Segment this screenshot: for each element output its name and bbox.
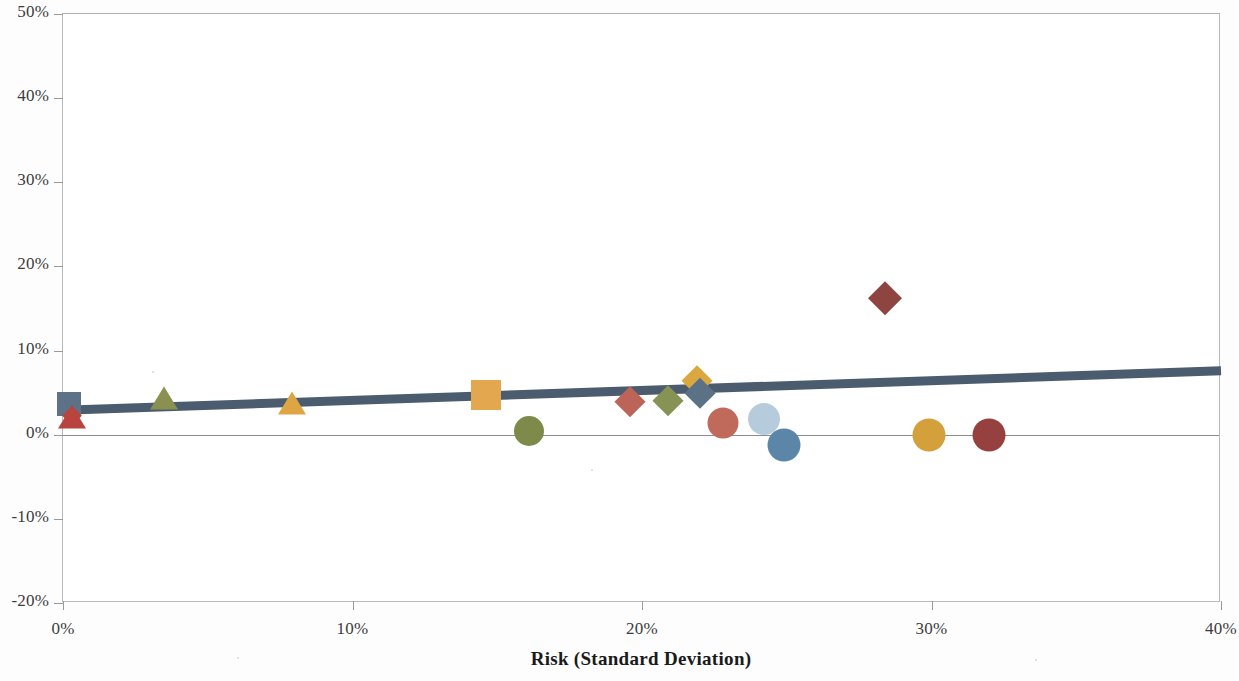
y-tick-mark xyxy=(54,98,63,99)
x-tick-label: 0% xyxy=(51,619,74,639)
y-tick-label: -20% xyxy=(11,591,49,611)
scan-speck xyxy=(152,371,154,373)
x-tick-label: 20% xyxy=(626,619,658,639)
x-tick-mark xyxy=(63,601,64,610)
y-tick-mark xyxy=(54,435,63,436)
chart-page: 50%40%30%20%10%0%-10%-20% 0%10%20%30%40%… xyxy=(0,0,1239,681)
data-point-triangle xyxy=(278,391,306,414)
y-tick-mark xyxy=(54,266,63,267)
x-axis-title: Risk (Standard Deviation) xyxy=(62,648,1220,670)
data-point-circle xyxy=(767,428,800,461)
data-point-triangle xyxy=(150,386,178,409)
x-tick-label: 40% xyxy=(1205,619,1237,639)
y-tick-label: -10% xyxy=(11,507,49,527)
x-tick-mark xyxy=(1221,601,1222,610)
y-tick-mark xyxy=(54,351,63,352)
y-tick-mark xyxy=(54,14,63,15)
y-tick-label: 40% xyxy=(17,86,49,106)
data-point-square xyxy=(471,380,501,410)
y-tick-mark xyxy=(54,182,63,183)
y-tick-mark xyxy=(54,519,63,520)
scan-speck xyxy=(1035,659,1037,661)
x-tick-mark xyxy=(353,601,354,610)
y-tick-label: 30% xyxy=(17,170,49,190)
trendline xyxy=(63,14,1219,601)
y-tick-mark xyxy=(54,603,63,604)
data-point-circle xyxy=(912,418,945,451)
x-tick-label: 10% xyxy=(337,619,369,639)
scan-speck xyxy=(237,657,239,659)
data-point-circle xyxy=(514,416,544,446)
x-tick-label: 30% xyxy=(916,619,948,639)
y-tick-label: 50% xyxy=(17,2,49,22)
x-tick-mark xyxy=(642,601,643,610)
scan-speck xyxy=(591,469,593,471)
y-tick-label: 10% xyxy=(17,339,49,359)
y-tick-label: 0% xyxy=(26,423,49,443)
data-point-circle xyxy=(708,407,739,438)
y-tick-label: 20% xyxy=(17,254,49,274)
zero-baseline xyxy=(63,435,1219,436)
data-point-circle xyxy=(973,418,1006,451)
x-tick-mark xyxy=(932,601,933,610)
plot-area: 50%40%30%20%10%0%-10%-20% 0%10%20%30%40% xyxy=(62,13,1220,602)
